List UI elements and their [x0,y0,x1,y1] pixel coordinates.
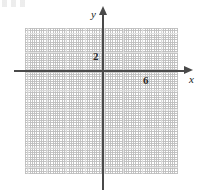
y-axis-label: y [91,9,96,20]
x-tick-label-6: 6 [143,75,149,86]
y-axis-line [102,14,104,190]
y-axis-arrow-icon [99,6,107,15]
x-axis-line [14,70,186,72]
graph-screenshot: y x 2 6 [0,0,203,192]
y-tick-label-2: 2 [93,51,99,62]
x-axis-label: x [189,74,194,85]
page-edge-artifact [2,0,28,7]
